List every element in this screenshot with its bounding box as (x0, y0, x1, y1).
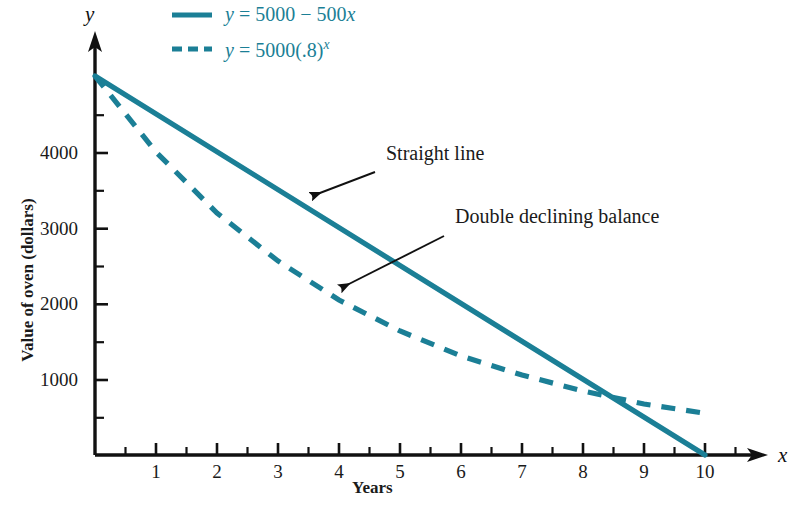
x-tick-label-4: 4 (324, 461, 354, 483)
x-tick-label-9: 9 (629, 461, 659, 483)
annotation-straight-line: Straight line (386, 142, 484, 165)
y-tick-label-3000: 3000 (8, 218, 78, 240)
legend-entry-double-declining: y = 5000(.8)x (225, 37, 330, 62)
y-axis-title: Value of oven (dollars) (18, 170, 38, 390)
legend-1-eq: = 5000 − 500 (234, 3, 347, 25)
legend-1-rhs-var: x (346, 3, 355, 25)
x-tick-label-2: 2 (202, 461, 232, 483)
chart-plot-area (0, 0, 802, 506)
legend-entry-straight-line: y = 5000 − 500x (225, 3, 355, 26)
annotation-double-declining-balance: Double declining balance (455, 205, 659, 228)
legend-2-eq: = 5000(.8) (234, 39, 324, 61)
legend-1-lhs: y (225, 3, 234, 25)
x-tick-label-8: 8 (568, 461, 598, 483)
legend-2-lhs: y (225, 39, 234, 61)
series-straight-line (95, 76, 705, 455)
y-tick-label-2000: 2000 (8, 293, 78, 315)
x-tick-label-7: 7 (507, 461, 537, 483)
legend-2-rhs-var: x (324, 37, 330, 52)
x-tick-label-3: 3 (263, 461, 293, 483)
chart-figure: y x Value of oven (dollars) Years 1000 2… (0, 0, 802, 506)
x-tick-label-10: 10 (690, 461, 720, 483)
x-tick-label-1: 1 (141, 461, 171, 483)
series-double-declining-balance (95, 76, 710, 414)
x-tick-label-6: 6 (446, 461, 476, 483)
x-tick-label-5: 5 (385, 461, 415, 483)
y-axis-variable-label: y (85, 2, 94, 27)
straight-line-annotation-arrow (312, 172, 375, 196)
y-tick-label-4000: 4000 (8, 142, 78, 164)
y-tick-label-1000: 1000 (8, 369, 78, 391)
x-axis-variable-label: x (778, 443, 787, 468)
